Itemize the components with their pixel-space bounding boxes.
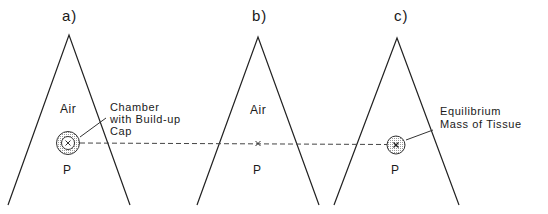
- panel-label-a: a): [62, 7, 77, 24]
- annotation-c-line2: Mass of Tissue: [440, 118, 522, 130]
- annotation-a-line1: Chamber: [110, 101, 159, 113]
- panel-label-c: c): [394, 7, 409, 24]
- panel-label-b: b): [252, 7, 267, 24]
- annotation-c-line1: Equilibrium: [440, 105, 501, 117]
- point-label-c: P: [391, 164, 400, 176]
- depth-line: [80, 143, 387, 145]
- annotation-a-line3: Cap: [110, 125, 132, 137]
- point-label-b: P: [253, 164, 262, 176]
- air-label-b: Air: [250, 104, 266, 116]
- annotation-a-line2: with Build-up: [110, 113, 181, 125]
- leader-c: [406, 130, 433, 140]
- beam-b: [197, 37, 319, 205]
- point-label-a: P: [63, 164, 72, 176]
- air-label-a: Air: [60, 103, 76, 115]
